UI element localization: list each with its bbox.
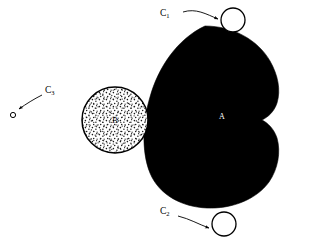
body-a-group: A — [144, 26, 279, 208]
callout-c2-group: C2 — [160, 206, 236, 236]
diagram-svg: A B C1 C2 C3 — [0, 0, 309, 248]
body-a-shape — [144, 26, 279, 208]
callout-c2-label: C2 — [160, 206, 170, 217]
callout-c3-label: C3 — [45, 85, 55, 96]
callout-c1-arrow — [183, 11, 218, 19]
callout-c3-circle — [10, 112, 15, 117]
body-b-label: B — [112, 116, 117, 125]
body-b-group: B — [82, 87, 148, 153]
figure-canvas: A B C1 C2 C3 — [0, 0, 309, 248]
callout-c1-label: C1 — [160, 8, 170, 19]
body-a-label: A — [219, 112, 225, 121]
callout-c2-arrow — [178, 216, 209, 228]
callout-c1-circle — [221, 8, 245, 32]
callout-c3-arrow — [19, 95, 42, 109]
callout-c3-group: C3 — [10, 85, 54, 117]
callout-c2-circle — [212, 212, 236, 236]
